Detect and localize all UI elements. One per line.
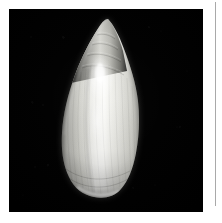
shell-specimen-photograph	[9, 9, 203, 212]
shoulder-specular-core	[95, 63, 105, 83]
midbody-specular	[90, 101, 104, 141]
right-margin-rule	[215, 2, 216, 206]
page-root	[0, 0, 222, 223]
shell-photo-canvas	[9, 9, 203, 212]
